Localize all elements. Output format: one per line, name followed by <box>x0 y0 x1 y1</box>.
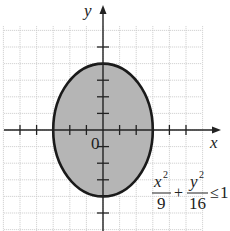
y-axis-arrow-icon <box>100 5 107 14</box>
plus-sign: + <box>174 184 183 201</box>
y-numerator: y <box>188 172 198 191</box>
rhs-value: 1 <box>220 183 229 202</box>
relation-sign: ≤ <box>210 184 219 201</box>
y-axis-label: y <box>82 1 92 20</box>
inequality-label: x 2 9 + y 2 16 ≤ 1 <box>152 169 229 213</box>
x-axis-label: x <box>209 133 218 152</box>
x-denominator: 9 <box>157 194 166 213</box>
x-exponent: 2 <box>163 169 168 180</box>
ellipse-inequality-graph: x y 0 x 2 9 + y 2 16 ≤ 1 <box>0 0 230 231</box>
y-denominator: 16 <box>189 194 206 213</box>
y-exponent: 2 <box>199 169 204 180</box>
x-numerator: x <box>153 172 162 191</box>
origin-label: 0 <box>91 134 100 153</box>
